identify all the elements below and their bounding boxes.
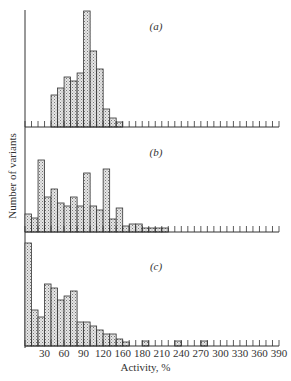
- histogram-bar: [45, 284, 52, 346]
- histogram-bar: [110, 118, 117, 127]
- x-tick-label: 60: [59, 347, 71, 359]
- histogram-bar: [97, 69, 104, 127]
- x-tick-label: 240: [173, 347, 190, 359]
- histogram-panel-a: (a): [25, 11, 279, 127]
- histogram-panel-c: (c): [25, 243, 279, 346]
- histogram-bar: [103, 109, 110, 127]
- histogram-figure: (a)(b)(c)3060901201601802102402703003303…: [0, 0, 291, 381]
- histogram-bar: [123, 226, 130, 232]
- x-tick-label: 180: [134, 347, 151, 359]
- histogram-bar: [84, 322, 91, 346]
- histogram-bar: [123, 342, 130, 346]
- histogram-bar: [38, 160, 45, 232]
- histogram-bar: [58, 300, 65, 346]
- histogram-bar: [97, 210, 104, 232]
- histogram-bar: [25, 243, 32, 346]
- histogram-bar: [77, 73, 84, 127]
- histogram-bar: [149, 228, 156, 232]
- histogram-bar: [84, 173, 91, 232]
- histogram-bar: [90, 206, 97, 232]
- histogram-bar: [51, 189, 58, 232]
- histogram-bar: [32, 218, 39, 232]
- panel-label: (b): [150, 146, 163, 159]
- y-axis-label: Number of variants: [6, 126, 18, 226]
- histogram-bar: [84, 11, 91, 127]
- histogram-bar: [71, 291, 78, 346]
- histogram-bar: [116, 122, 123, 127]
- x-tick-label: 300: [212, 347, 229, 359]
- histogram-bar: [51, 288, 58, 346]
- histogram-bar: [162, 228, 169, 232]
- panel-label: (c): [150, 260, 163, 273]
- histogram-bar: [90, 51, 97, 127]
- x-tick-label: 90: [78, 347, 90, 359]
- histogram-bar: [77, 206, 84, 232]
- x-tick-label: 330: [232, 347, 249, 359]
- histogram-panel-b: (b): [25, 146, 279, 232]
- histogram-bar: [71, 197, 78, 232]
- x-tick-label: 270: [193, 347, 210, 359]
- histogram-bar: [97, 330, 104, 346]
- histogram-bar: [64, 77, 71, 127]
- histogram-bar: [142, 228, 149, 232]
- histogram-bar: [38, 317, 45, 346]
- x-tick-label: 120: [95, 347, 112, 359]
- histogram-bar: [58, 88, 65, 127]
- x-axis-label: Activity, %: [0, 361, 291, 373]
- histogram-bar: [201, 341, 208, 346]
- histogram-bar: [110, 334, 117, 346]
- histogram-bar: [45, 197, 52, 232]
- x-tick-label: 390: [271, 347, 288, 359]
- x-tick-label: 210: [154, 347, 171, 359]
- histogram-bar: [64, 296, 71, 346]
- x-tick-label: 160: [114, 347, 131, 359]
- histogram-bar: [116, 339, 123, 346]
- histogram-bar: [136, 224, 143, 232]
- histogram-bar: [129, 224, 136, 232]
- histogram-bar: [175, 341, 182, 346]
- histogram-bar: [71, 81, 78, 127]
- histogram-bar: [32, 310, 39, 346]
- histogram-bar: [64, 206, 71, 232]
- histogram-bar: [142, 341, 149, 346]
- x-tick-label: 360: [251, 347, 268, 359]
- histogram-bar: [58, 203, 65, 232]
- histogram-bar: [25, 214, 32, 232]
- panel-label: (a): [150, 20, 163, 33]
- x-tick-label: 30: [39, 347, 51, 359]
- histogram-bar: [116, 208, 123, 232]
- histogram-bar: [51, 95, 58, 127]
- histogram-bar: [77, 322, 84, 346]
- histogram-bar: [90, 326, 97, 346]
- histogram-bar: [103, 334, 110, 346]
- histogram-bar: [155, 228, 162, 232]
- histogram-bar: [110, 219, 117, 232]
- histogram-bar: [103, 169, 110, 232]
